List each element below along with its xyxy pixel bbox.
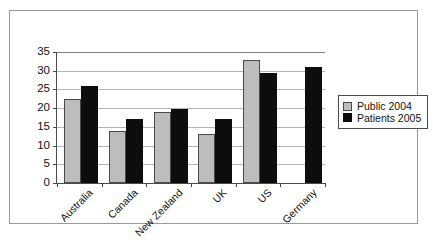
bar-group <box>198 52 232 183</box>
bar-patients-2005 <box>215 119 232 183</box>
chart-frame: 05101520253035AustraliaCanadaNew Zealand… <box>9 10 418 224</box>
bar-public-2004 <box>154 112 171 183</box>
bar-group <box>288 52 322 183</box>
y-axis-tick <box>53 164 57 165</box>
y-axis-tick <box>53 89 57 90</box>
y-axis-tick-label: 30 <box>37 65 50 77</box>
y-axis-tick <box>53 71 57 72</box>
bar-group <box>243 52 277 183</box>
chart-legend: Public 2004 Patients 2005 <box>338 95 428 129</box>
bar-group <box>64 52 98 183</box>
bar-patients-2005 <box>171 109 188 183</box>
x-axis-label: US <box>256 187 274 205</box>
x-axis-label: New Zealand <box>133 187 184 238</box>
plot-area: 05101520253035AustraliaCanadaNew Zealand… <box>56 52 325 184</box>
bar-public-2004 <box>64 99 81 183</box>
y-axis-tick <box>53 108 57 109</box>
y-axis-tick <box>53 52 57 53</box>
bar-patients-2005 <box>305 67 322 183</box>
bar-patients-2005 <box>126 119 143 183</box>
x-axis-label: UK <box>211 187 229 205</box>
x-axis-tick <box>325 183 326 187</box>
legend-swatch-patients-icon <box>343 113 352 122</box>
x-axis-tick <box>102 183 103 187</box>
x-axis-label: Germany <box>280 187 318 225</box>
legend-label-patients: Patients 2005 <box>357 113 421 124</box>
bar-group <box>154 52 188 183</box>
legend-label-public: Public 2004 <box>357 101 412 112</box>
y-axis-tick <box>53 127 57 128</box>
bar-public-2004 <box>243 60 260 184</box>
x-axis-tick <box>191 183 192 187</box>
y-axis-tick-label: 15 <box>37 121 50 133</box>
x-axis-label: Australia <box>58 187 94 223</box>
y-axis-tick <box>53 146 57 147</box>
legend-swatch-public-icon <box>343 102 352 111</box>
y-axis-tick-label: 0 <box>44 177 50 189</box>
x-axis-tick <box>236 183 237 187</box>
legend-item-public: Public 2004 <box>343 101 421 112</box>
x-axis-tick <box>280 183 281 187</box>
y-axis-tick-label: 10 <box>37 140 50 152</box>
y-axis-tick-label: 25 <box>37 84 50 96</box>
x-axis-tick <box>146 183 147 187</box>
chart-figure: 05101520253035AustraliaCanadaNew Zealand… <box>0 0 433 247</box>
bar-public-2004 <box>198 134 215 183</box>
bar-patients-2005 <box>81 86 98 183</box>
legend-item-patients: Patients 2005 <box>343 113 421 124</box>
x-axis-label: Canada <box>106 187 139 220</box>
bar-public-2004 <box>109 131 126 183</box>
bar-group <box>109 52 143 183</box>
y-axis-tick-label: 35 <box>37 46 50 58</box>
y-axis-tick-label: 20 <box>37 102 50 114</box>
bar-patients-2005 <box>260 73 277 183</box>
x-axis-tick <box>57 183 58 187</box>
y-axis-tick-label: 5 <box>44 159 50 171</box>
